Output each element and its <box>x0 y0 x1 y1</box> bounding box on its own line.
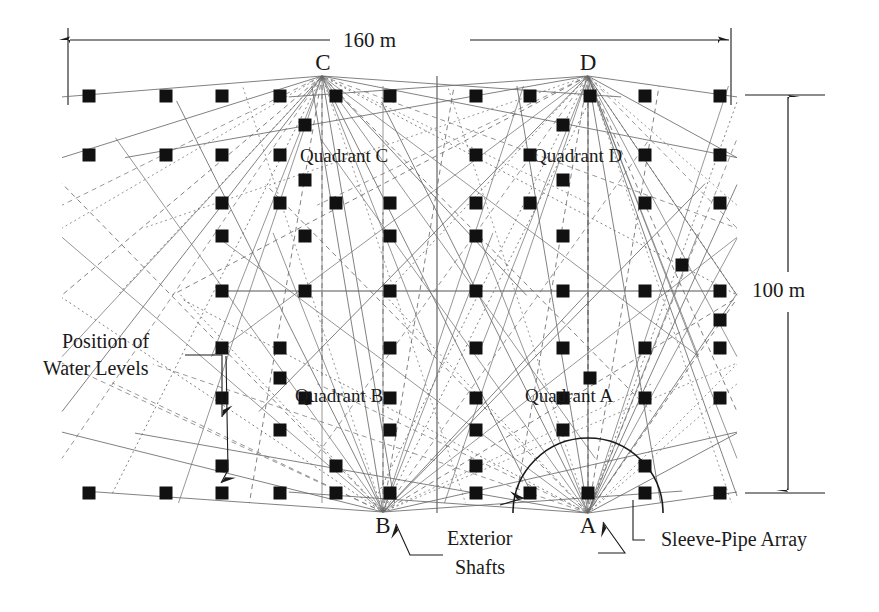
dimension-height-label: 100 m <box>752 278 805 302</box>
callout-water-levels-line2: Water Levels <box>43 357 149 380</box>
dimension-width-label: 160 m <box>343 28 396 52</box>
sleeve-pipe-line <box>116 138 383 512</box>
callout-exterior-shafts-line1: Exterior <box>447 527 513 550</box>
water-level-marker <box>524 90 537 103</box>
water-level-marker <box>216 342 229 355</box>
water-level-marker <box>274 197 287 210</box>
sleeve-pipe-line <box>62 76 322 158</box>
water-level-marker <box>714 149 727 162</box>
quadrant-label-c: Quadrant C <box>300 145 388 167</box>
water-level-marker <box>470 424 483 437</box>
water-level-marker <box>83 90 96 103</box>
water-level-marker <box>470 487 483 500</box>
callout-exterior-shafts-line2: Shafts <box>455 556 505 579</box>
water-level-marker <box>557 424 570 437</box>
water-level-marker <box>330 487 343 500</box>
quadrant-label-b: Quadrant B <box>295 385 383 407</box>
plan-view-drawing <box>0 0 879 612</box>
sleeve-pipe-line <box>266 185 588 513</box>
water-level-marker <box>384 342 397 355</box>
shaft-label-a[interactable]: A <box>575 513 601 539</box>
water-level-marker <box>557 174 570 187</box>
water-level-marker <box>160 487 173 500</box>
water-level-marker <box>714 314 727 327</box>
water-level-marker <box>330 460 343 473</box>
water-level-marker <box>714 197 727 210</box>
water-level-marker <box>557 230 570 243</box>
water-level-marker <box>274 424 287 437</box>
water-level-marker <box>584 90 597 103</box>
water-level-marker <box>470 392 483 405</box>
sleeve-pipe-fan-arrays <box>62 76 737 513</box>
sleeve-pipe-line <box>62 76 322 357</box>
water-level-marker <box>216 285 229 298</box>
water-level-marker <box>299 285 312 298</box>
water-level-marker <box>639 197 652 210</box>
sleeve-pipe-line <box>322 76 651 412</box>
water-level-marker <box>470 149 483 162</box>
water-level-marker <box>557 342 570 355</box>
water-level-marker <box>160 149 173 162</box>
callout-sleeve-pipe-array: Sleeve-Pipe Array <box>661 528 807 551</box>
water-level-marker <box>639 149 652 162</box>
sleeve-pipe-line <box>383 86 523 512</box>
water-level-marker <box>83 487 96 500</box>
callout-water-levels-line1: Position of <box>62 330 149 353</box>
quadrant-label-d: Quadrant D <box>533 145 622 167</box>
water-level-marker <box>470 342 483 355</box>
water-level-marker <box>216 197 229 210</box>
sleeve-pipe-line <box>383 184 705 512</box>
water-level-marker <box>714 285 727 298</box>
water-level-marker <box>384 285 397 298</box>
water-level-marker <box>676 259 689 272</box>
water-level-marker <box>384 392 397 405</box>
water-level-marker <box>216 149 229 162</box>
water-level-marker <box>584 372 597 385</box>
water-level-marker <box>639 342 652 355</box>
water-level-marker <box>274 372 287 385</box>
sleeve-pipe-line <box>588 76 732 503</box>
water-level-marker <box>274 342 287 355</box>
sleeve-pipe-line <box>135 433 588 513</box>
water-level-marker <box>639 90 652 103</box>
water-level-marker <box>524 197 537 210</box>
water-level-marker <box>470 230 483 243</box>
water-level-marker <box>83 149 96 162</box>
shaft-label-b[interactable]: B <box>370 513 396 539</box>
water-level-marker <box>714 487 727 500</box>
water-level-marker <box>557 119 570 132</box>
water-level-marker <box>216 460 229 473</box>
water-level-marker <box>384 197 397 210</box>
water-level-marker <box>384 487 397 500</box>
sleeve-pipe-line <box>62 76 322 458</box>
water-level-marker <box>714 342 727 355</box>
water-level-marker <box>299 174 312 187</box>
sleeve-pipe-line <box>212 76 322 355</box>
sleeve-pipe-line <box>383 237 737 512</box>
water-level-marker <box>274 90 287 103</box>
shaft-label-c[interactable]: C <box>310 50 336 76</box>
water-level-marker <box>714 392 727 405</box>
diagram-canvas: 160 m 100 m C D B A Quadrant C Quadrant … <box>0 0 879 612</box>
water-level-marker <box>216 230 229 243</box>
water-level-marker <box>639 285 652 298</box>
water-level-marker <box>639 487 652 500</box>
sleeve-pipe-line <box>383 86 454 512</box>
water-level-marker <box>216 487 229 500</box>
quadrant-label-a: Quadrant A <box>525 385 613 407</box>
water-level-marker <box>384 90 397 103</box>
water-level-marker <box>330 90 343 103</box>
water-level-marker <box>470 460 483 473</box>
water-level-marker-group <box>83 90 727 500</box>
water-level-marker <box>299 119 312 132</box>
water-level-marker <box>582 487 595 500</box>
water-level-marker <box>216 90 229 103</box>
water-level-marker <box>639 392 652 405</box>
water-level-marker <box>557 285 570 298</box>
water-level-marker <box>639 460 652 473</box>
shaft-label-d[interactable]: D <box>575 50 601 76</box>
water-level-marker <box>470 197 483 210</box>
sleeve-pipe-line <box>383 383 654 512</box>
sleeve-pipe-line <box>588 76 737 412</box>
water-level-marker <box>470 90 483 103</box>
